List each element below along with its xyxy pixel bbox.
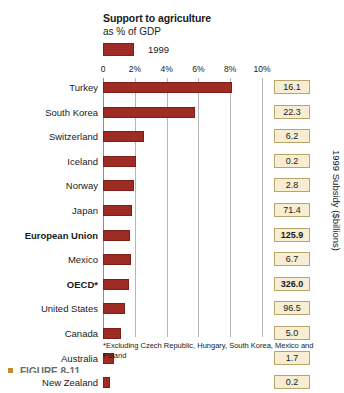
chart-row: Japan71.4 (0, 201, 344, 226)
bar-japan (103, 205, 132, 216)
subsidy-value-turkey: 16.1 (274, 80, 310, 94)
x-axis-tick-4: 8% (224, 64, 236, 74)
row-label-oecd: OECD* (67, 279, 98, 290)
legend-label-1999: 1999 (148, 44, 169, 55)
chart-title: Support to agriculture (103, 12, 303, 25)
bar-norway (103, 180, 134, 191)
legend-swatch-1999 (103, 43, 134, 56)
x-axis-tick-2: 4% (160, 64, 172, 74)
row-label-mexico: Mexico (68, 254, 98, 265)
subsidy-value-european-union: 125.9 (274, 228, 310, 242)
chart-plot-area: 02%4%6%8%10% Turkey16.1South Korea22.3Sw… (0, 64, 344, 349)
x-axis-tick-0: 0 (101, 64, 106, 74)
subsidy-value-new-zealand: 0.2 (274, 375, 310, 389)
figure-caption-marker (8, 368, 13, 373)
bar-iceland (103, 156, 136, 167)
row-label-norway: Norway (66, 180, 98, 191)
row-label-united-states: United States (41, 303, 98, 314)
subsidy-value-south-korea: 22.3 (274, 105, 310, 119)
subsidy-value-canada: 5.0 (274, 326, 310, 340)
chart-header: Support to agriculture as % of GDP 1999 (103, 12, 303, 56)
x-axis-tick-5: 10% (253, 64, 270, 74)
subsidy-value-japan: 71.4 (274, 203, 310, 217)
row-label-canada: Canada (65, 328, 98, 339)
x-axis-tick-labels: 02%4%6%8%10% (0, 64, 344, 78)
chart-row: South Korea22.3 (0, 103, 344, 128)
chart-row: European Union125.9 (0, 226, 344, 251)
chart-subtitle: as % of GDP (103, 25, 303, 38)
subsidy-value-mexico: 6.7 (274, 252, 310, 266)
subsidy-value-oecd: 326.0 (274, 277, 310, 291)
bar-united-states (103, 303, 125, 314)
row-label-iceland: Iceland (67, 156, 98, 167)
chart-row: Switzerland6.2 (0, 127, 344, 152)
x-axis-tick-3: 6% (192, 64, 204, 74)
bar-european-union (103, 230, 130, 241)
row-label-switzerland: Switzerland (49, 131, 98, 142)
chart-legend: 1999 (103, 43, 303, 56)
row-label-european-union: European Union (25, 230, 98, 241)
chart-row: Iceland0.2 (0, 152, 344, 177)
row-label-japan: Japan (72, 205, 98, 216)
chart-row: New Zealand0.2 (0, 373, 344, 393)
x-axis-tick-1: 2% (129, 64, 141, 74)
row-label-australia: Australia (61, 353, 98, 364)
bar-oecd (103, 279, 129, 290)
subsidy-value-norway: 2.8 (274, 178, 310, 192)
chart-row: OECD*326.0 (0, 275, 344, 300)
chart-row: Norway2.8 (0, 176, 344, 201)
subsidy-value-iceland: 0.2 (274, 154, 310, 168)
figure-caption: FIGURE 8-11 (20, 366, 80, 373)
subsidy-value-united-states: 96.5 (274, 301, 310, 315)
row-label-turkey: Turkey (69, 82, 98, 93)
chart-row: Mexico6.7 (0, 250, 344, 275)
subsidy-value-switzerland: 6.2 (274, 129, 310, 143)
bar-mexico (103, 254, 131, 265)
bar-switzerland (103, 131, 144, 142)
chart-row: Turkey16.1 (0, 78, 344, 103)
bar-turkey (103, 82, 232, 93)
bar-canada (103, 328, 121, 339)
chart-footnote: *Excluding Czech Republic, Hungary, Sout… (103, 341, 318, 361)
bar-south-korea (103, 107, 195, 118)
chart-row: United States96.5 (0, 299, 344, 324)
row-label-south-korea: South Korea (45, 107, 98, 118)
bar-new-zealand (103, 377, 110, 388)
secondary-axis-title: 1999 Subsidy ($billions) (331, 150, 342, 251)
row-label-new-zealand: New Zealand (42, 377, 98, 388)
